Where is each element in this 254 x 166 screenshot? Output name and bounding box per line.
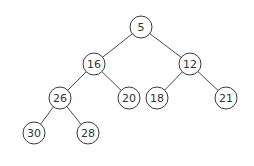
node-label: 16 [87,58,101,71]
edge-26-28 [67,107,81,125]
edge-26-30 [41,107,54,124]
edge-12-18 [165,72,183,90]
tree-edges [41,34,218,125]
node-label: 21 [219,92,233,105]
node-label: 20 [122,92,136,105]
tree-node-16: 16 [83,53,105,75]
tree-node-5: 5 [130,16,152,38]
node-label: 5 [138,21,145,34]
node-label: 28 [81,127,95,140]
tree-node-30: 30 [23,122,45,144]
tree-node-12: 12 [179,53,201,75]
tree-node-28: 28 [77,122,99,144]
tree-node-18: 18 [146,87,168,109]
tree-node-21: 21 [215,87,237,109]
edge-16-26 [68,72,86,90]
tree-node-20: 20 [118,87,140,109]
node-label: 12 [183,58,197,71]
node-label: 18 [150,92,164,105]
edge-5-16 [103,34,133,57]
edge-5-12 [150,34,181,58]
node-label: 26 [53,92,67,105]
node-label: 30 [27,127,41,140]
tree-diagram: 51612262018213028 [0,0,254,166]
edge-16-20 [102,72,121,91]
tree-node-26: 26 [49,87,71,109]
edge-12-21 [198,72,218,91]
